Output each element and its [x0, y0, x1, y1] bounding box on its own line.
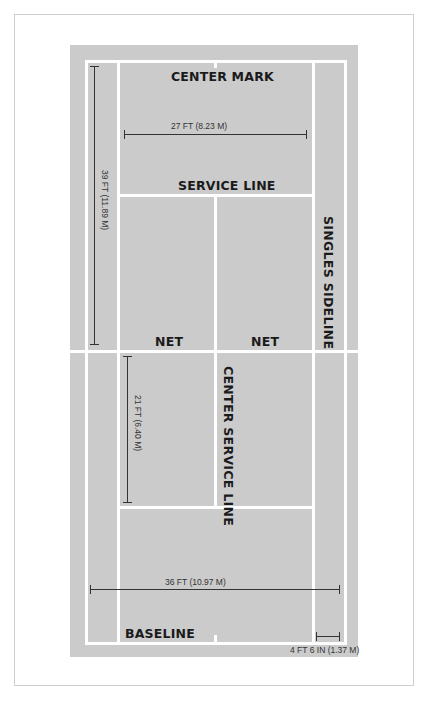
dim-half-length-tick-bottom	[90, 344, 99, 345]
bottom-center-mark	[214, 635, 217, 643]
dim-service-box-label: 21 FT (6.40 M)	[133, 395, 143, 451]
dim-doubles-width-tick-right	[339, 585, 340, 594]
dim-doubles-width-tick-left	[90, 585, 91, 594]
dim-half-length-label: 39 FT (11.89 M)	[100, 170, 110, 230]
dim-service-box-line	[127, 356, 128, 503]
label-net-right: NET	[251, 334, 279, 349]
label-center-service-line: CENTER SERVICE LINE	[221, 366, 236, 526]
center-service-line	[214, 194, 217, 509]
label-singles-sideline: SINGLES SIDELINE	[321, 216, 336, 349]
label-net-left: NET	[155, 334, 183, 349]
dim-service-box-tick-bottom	[123, 502, 132, 503]
dim-service-box-tick-top	[123, 356, 132, 357]
dim-half-length-line	[94, 66, 95, 345]
label-baseline: BASELINE	[125, 626, 195, 641]
dim-alley-width-tick-left	[316, 632, 317, 641]
dim-singles-width-tick-right	[306, 130, 307, 139]
tennis-court	[70, 45, 358, 657]
dim-doubles-width-label: 36 FT (10.97 M)	[165, 577, 226, 587]
dim-alley-width-label: 4 FT 6 IN (1.37 M)	[290, 645, 359, 655]
label-center-mark: CENTER MARK	[171, 69, 274, 84]
dim-alley-width-line	[316, 636, 340, 637]
dim-singles-width-tick-left	[124, 130, 125, 139]
dim-singles-width-line	[124, 134, 307, 135]
label-service-line: SERVICE LINE	[178, 178, 276, 193]
dim-singles-width-label: 27 FT (8.23 M)	[171, 121, 227, 131]
dim-alley-width-tick-right	[339, 632, 340, 641]
top-center-mark	[214, 60, 217, 68]
dim-doubles-width-line	[90, 589, 340, 590]
dim-half-length-tick-top	[90, 66, 99, 67]
